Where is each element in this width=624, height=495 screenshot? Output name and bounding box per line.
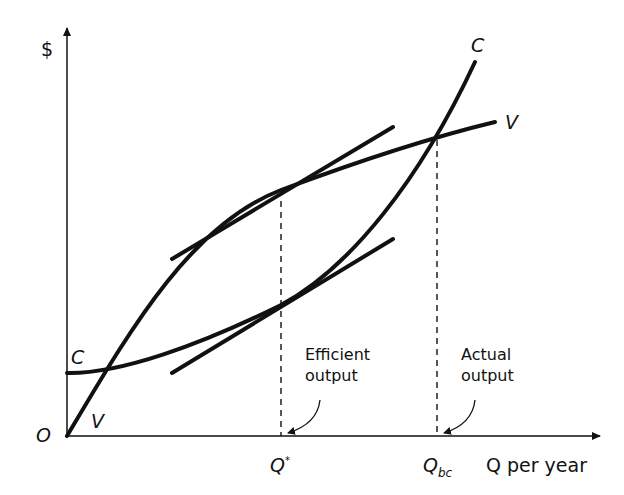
q-bc-subscript: bc: [438, 466, 452, 480]
cost-curve-label-top: C: [471, 36, 484, 55]
actual-annotation-line2: output: [461, 366, 514, 385]
actual-output-arrow: [444, 400, 475, 433]
q-star-superscript: *: [285, 455, 290, 466]
value-curve-label-right: V: [505, 113, 518, 132]
q-star-base: Q: [270, 454, 285, 476]
value-curve-label-left: V: [91, 412, 104, 431]
actual-annotation-line1: Actual: [461, 345, 511, 364]
q-bc-tick-label: Qbc: [423, 456, 452, 475]
q-bc-base: Q: [423, 454, 438, 476]
efficient-output-annotation: Efficient output: [305, 344, 370, 386]
x-axis-label: Q per year: [486, 456, 587, 475]
efficient-output-arrow: [288, 400, 320, 433]
efficient-annotation-line2: output: [305, 366, 358, 385]
origin-label: O: [36, 426, 51, 445]
q-star-tick-label: Q*: [270, 456, 290, 475]
y-axis-label: $: [41, 40, 53, 59]
efficient-annotation-line1: Efficient: [305, 345, 370, 364]
cost-curve: [67, 62, 475, 373]
cost-curve-label-left: C: [71, 348, 84, 367]
actual-output-annotation: Actual output: [461, 344, 514, 386]
